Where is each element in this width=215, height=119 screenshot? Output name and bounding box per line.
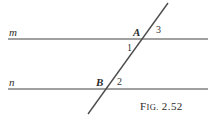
- figure-caption: FIG.2.52: [140, 96, 183, 114]
- point-label-b: B: [96, 77, 103, 88]
- angle-label-2: 2: [117, 77, 122, 87]
- line-label-n: n: [9, 77, 15, 88]
- angle-label-3: 3: [156, 25, 161, 35]
- caption-prefix-smallcaps: IG.: [147, 102, 159, 112]
- figure-canvas: [0, 0, 215, 119]
- line-label-m: m: [9, 27, 17, 38]
- geometry-figure: m n A B 1 2 3 FIG.2.52: [0, 0, 215, 119]
- caption-number: 2.52: [162, 100, 183, 112]
- angle-label-1: 1: [127, 43, 132, 53]
- point-label-a: A: [133, 27, 140, 38]
